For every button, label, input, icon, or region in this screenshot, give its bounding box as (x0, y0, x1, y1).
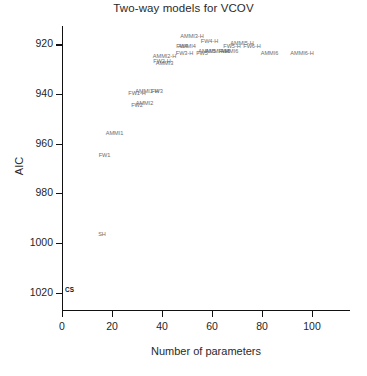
data-point-label: AMMI2-H (153, 54, 176, 60)
x-tick (262, 311, 263, 317)
x-tick (162, 311, 163, 317)
y-tick-label: 1000 (30, 236, 53, 248)
data-point-label: AMMI1 (106, 131, 123, 137)
x-tick (212, 311, 213, 317)
y-tick-label: 940 (35, 87, 53, 99)
x-tick-label: 60 (192, 320, 232, 332)
data-point-label: AMMI6 (261, 52, 278, 58)
data-point-label: FW3-H (176, 52, 193, 58)
x-tick (312, 311, 313, 317)
data-point-label: FW2-H (153, 59, 170, 65)
data-point-label: AMMI4 (178, 44, 195, 50)
data-point-label: CS (65, 287, 74, 293)
x-tick-label: 0 (42, 320, 82, 332)
data-point-label: AMMI6-H (290, 52, 313, 58)
data-point-label: AMMI6 (221, 49, 238, 55)
x-tick-label: 20 (92, 320, 132, 332)
x-tick (112, 311, 113, 317)
x-tick-label: 40 (142, 320, 182, 332)
x-axis-title: Number of parameters (62, 345, 350, 357)
data-point-label: FW6-H (243, 44, 260, 50)
y-tick-label: 980 (35, 186, 53, 198)
x-tick (62, 311, 63, 317)
y-tick-label: 1020 (30, 286, 53, 298)
data-point-label: FW4-H (201, 39, 218, 45)
y-tick-label: 920 (35, 37, 53, 49)
data-point-label: SH (98, 233, 106, 239)
scatter-plot-area: CSSHFW1AMMI1FW2AMMI2FW1-HAMMI1-HFW3AMMI3… (62, 28, 337, 311)
y-tick-label: 960 (35, 137, 53, 149)
chart-title: Two-way models for VCOV (0, 2, 367, 14)
y-axis-title: AIC (13, 136, 25, 196)
x-tick-label: 80 (242, 320, 282, 332)
data-point-label: AMMI2 (136, 101, 153, 107)
data-point-label: FW1 (99, 153, 111, 159)
chart-figure: Two-way models for VCOV 9209409609801000… (0, 0, 367, 376)
x-tick-label: 100 (292, 320, 332, 332)
data-point-label: FW3 (151, 89, 163, 95)
